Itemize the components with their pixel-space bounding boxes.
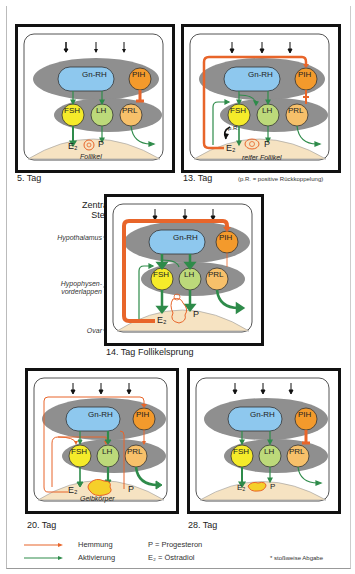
diagram-day28 (190, 371, 338, 511)
prl-label: PRL (208, 270, 224, 279)
gnrh-label: Gn-RH (88, 410, 113, 419)
p-label: P (193, 309, 199, 319)
panel-day13: Gn-RH PIH FSH LH PRL p.R. E₂ P reifer Fo… (181, 24, 341, 173)
legend-aktivierung: Aktivierung (78, 553, 115, 562)
e2-label: E₂ (68, 141, 78, 151)
lh-label: LH (264, 447, 274, 456)
lh-label: LH (102, 447, 112, 456)
gnrh-label: Gn-RH (82, 70, 107, 79)
p-label: P (128, 484, 134, 494)
panel-day28: Gn-RH PIH FSH LH PRL E₂ P (187, 368, 341, 514)
legend-asterisk-note: * stoßweise Abgabe (270, 555, 323, 561)
fsh-label: FSH (71, 447, 87, 456)
gnrh-label: Gn-RH (248, 70, 273, 79)
lh-label: LH (262, 106, 272, 115)
label-ovar: Ovar (40, 327, 102, 335)
diagram-day5 (18, 27, 172, 170)
caption-day28: 28. Tag (188, 520, 217, 530)
e2-label: E₂ (226, 143, 236, 153)
caption-day13: 13. Tag (183, 173, 212, 183)
fsh-label: FSH (230, 106, 246, 115)
lh-label: LH (184, 270, 194, 279)
panel-day5: Gn-RH PIH FSH LH PRL E₂ P Follikel (15, 24, 175, 173)
fsh-label: FSH (64, 106, 80, 115)
e2-label: E₂ (157, 315, 167, 325)
p-label: P (98, 139, 104, 149)
p-label: P (264, 139, 270, 149)
legend-oestradiol: E₂ = Östradiol (148, 553, 194, 562)
pih-label: PIH (219, 233, 232, 242)
ovary-label-follikel: Follikel (80, 153, 102, 160)
fsh-label: FSH (153, 270, 169, 279)
lh-label: LH (96, 106, 106, 115)
panel-day20: Gn-RH PIH FSH LH PRL E₂ P Gelbkörper (25, 368, 179, 514)
prl-label: PRL (122, 106, 138, 115)
pih-label: PIH (298, 70, 311, 79)
caption-follikelsprung: Follikelsprung (138, 347, 194, 357)
ovary-label-gelbkoerper: Gelbkörper (80, 495, 115, 502)
pih-label: PIH (298, 410, 311, 419)
prl-label: PRL (289, 447, 305, 456)
pih-label: PIH (132, 70, 145, 79)
p-label: P (270, 482, 275, 491)
legend-hemmung: Hemmung (78, 540, 113, 549)
diagram-day13 (184, 27, 338, 170)
gnrh-label: Gn-RH (250, 410, 275, 419)
gnrh-label: Gn-RH (173, 233, 198, 242)
e2-label: E₂ (237, 483, 245, 492)
fsh-label: FSH (233, 447, 249, 456)
prl-label: PRL (127, 447, 143, 456)
panel-day14: Gn-RH PIH FSH LH PRL E₂ P (104, 194, 264, 346)
ovary-label-reifer-follikel: reifer Follikel (242, 154, 282, 161)
pih-label: PIH (136, 410, 149, 419)
positive-feedback-note: (p.R. = positive Rückkoppelung) (238, 176, 323, 182)
caption-day5: 5. Tag (17, 173, 41, 183)
positive-feedback-label: p.R. (228, 125, 239, 131)
diagram-day20 (28, 371, 176, 511)
e2-label: E₂ (68, 485, 78, 495)
label-hvl-line2: vorderlappen (40, 288, 102, 296)
caption-day20: 20. Tag (27, 520, 56, 530)
legend-progesteron: P = Progesteron (148, 540, 202, 549)
caption-day14: 14. Tag (106, 347, 135, 357)
label-hvl-line1: Hypophysen- (40, 280, 102, 288)
label-hypothalamus: Hypothalamus (40, 234, 102, 242)
prl-label: PRL (288, 106, 304, 115)
